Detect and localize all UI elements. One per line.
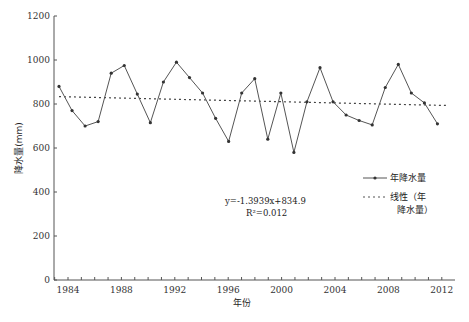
y-tick-label: 400 (33, 187, 50, 197)
y-axis-title: 降水量(mm) (13, 122, 24, 174)
x-axis-title: 年份 (233, 297, 251, 308)
data-point-marker (240, 91, 243, 94)
legend-series1: 年降水量 (390, 172, 426, 183)
y-tick-label: 1000 (27, 55, 50, 65)
data-point-marker (175, 61, 178, 64)
data-point-marker (214, 117, 217, 120)
data-point-marker (188, 76, 191, 79)
data-point-marker (397, 63, 400, 66)
data-point-marker (358, 119, 361, 122)
x-tick-label: 1992 (163, 285, 186, 295)
x-tick-label: 2000 (270, 285, 293, 295)
y-tick-label: 200 (33, 231, 50, 241)
data-point-marker (123, 64, 126, 67)
data-point-marker (266, 138, 269, 141)
data-point-marker (84, 124, 87, 127)
x-tick-label: 2012 (430, 285, 453, 295)
data-point-marker (292, 151, 295, 154)
data-point-marker (318, 66, 321, 69)
x-tick-label: 1988 (110, 285, 133, 295)
axes: 0200400600800100012001984198819921996200… (27, 11, 455, 295)
y-tick-label: 1200 (27, 11, 50, 21)
precipitation-chart: 0200400600800100012001984198819921996200… (0, 0, 469, 322)
data-point-marker (149, 121, 152, 124)
legend-series2-line1: 线性（年 (390, 191, 426, 202)
data-point-marker (70, 109, 73, 112)
x-tick-label: 1984 (57, 285, 80, 295)
data-point-marker (345, 113, 348, 116)
data-point-marker (227, 140, 230, 143)
x-tick-label: 2004 (324, 285, 347, 295)
x-tick-label: 1996 (217, 285, 240, 295)
y-tick-label: 800 (33, 99, 50, 109)
y-tick-label: 0 (44, 275, 50, 285)
data-point-marker (384, 86, 387, 89)
precipitation-series (57, 61, 439, 154)
trend-equation: y=-1.3939x+834.9 (224, 196, 306, 206)
data-point-marker (162, 80, 165, 83)
data-point-marker (279, 91, 282, 94)
legend-marker-icon (373, 176, 376, 179)
data-point-marker (331, 100, 334, 103)
data-point-marker (57, 85, 60, 88)
legend: 年降水量 线性（年 降水量） (363, 172, 433, 215)
legend-series2-line2: 降水量） (397, 204, 433, 215)
data-point-marker (201, 91, 204, 94)
data-point-marker (136, 93, 139, 96)
x-tick-label: 2008 (377, 285, 400, 295)
data-point-marker (436, 122, 439, 125)
data-point-marker (253, 77, 256, 80)
data-point-marker (110, 72, 113, 75)
data-point-marker (423, 101, 426, 104)
r-squared: R²=0.012 (246, 208, 287, 218)
trend-line (59, 97, 448, 106)
data-point-marker (371, 123, 374, 126)
data-point-marker (97, 120, 100, 123)
data-point-marker (305, 100, 308, 103)
data-point-marker (410, 91, 413, 94)
y-tick-label: 600 (33, 143, 50, 153)
